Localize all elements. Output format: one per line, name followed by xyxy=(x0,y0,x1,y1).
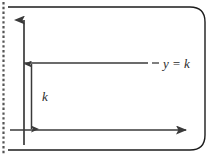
figure-container: y = k k xyxy=(0,0,212,157)
distance-label-k: k xyxy=(42,89,48,104)
constant-function-diagram: y = k k xyxy=(0,0,212,157)
line-label-y-equals-k: y = k xyxy=(161,56,190,71)
